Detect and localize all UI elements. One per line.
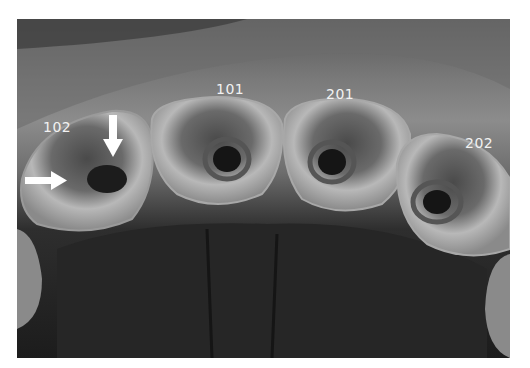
tooth-label-201: 201: [326, 86, 354, 102]
tooth-101: [151, 97, 282, 204]
tooth-102: [21, 111, 153, 231]
dental-photo: 102 101 201 202: [17, 19, 510, 358]
tooth-201: [284, 99, 410, 211]
tooth-label-202: 202: [465, 135, 493, 151]
teeth-illustration: [17, 19, 510, 358]
tooth-label-102: 102: [43, 119, 71, 135]
tooth-202: [397, 134, 510, 255]
tooth-label-101: 101: [216, 81, 244, 97]
